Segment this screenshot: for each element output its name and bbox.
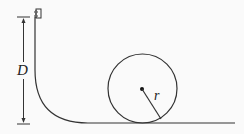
diagram-graphics <box>0 0 244 134</box>
radius-label: r <box>154 89 159 103</box>
track-curve <box>35 17 235 123</box>
arrow-down-icon <box>22 118 26 123</box>
loop-the-loop-diagram: D r <box>0 0 244 134</box>
height-label: D <box>17 62 28 79</box>
cart-icon <box>35 9 41 18</box>
arrow-up-icon <box>22 18 26 23</box>
